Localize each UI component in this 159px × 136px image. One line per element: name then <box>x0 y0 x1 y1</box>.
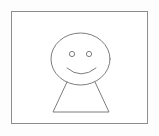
right-eye-icon <box>86 51 91 56</box>
drawing-frame-border <box>12 12 148 124</box>
drawing-canvas: A simple hand-drawn style smiley face fi… <box>0 0 159 136</box>
figure-drawing-svg <box>0 0 159 136</box>
left-eye-icon <box>69 51 74 56</box>
